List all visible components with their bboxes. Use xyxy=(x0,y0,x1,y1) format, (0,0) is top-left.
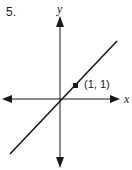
graph xyxy=(0,0,132,170)
line-y-equals-x xyxy=(10,41,117,154)
x-axis-right-arrow-icon xyxy=(110,95,120,103)
y-axis-down-arrow-icon xyxy=(56,157,64,168)
y-axis-up-arrow-icon xyxy=(56,16,64,27)
point-1-1-marker xyxy=(73,83,78,88)
x-axis-left-arrow-icon xyxy=(2,95,12,103)
